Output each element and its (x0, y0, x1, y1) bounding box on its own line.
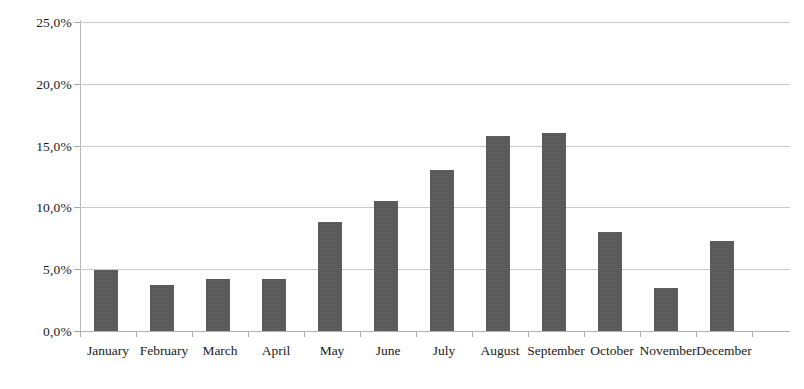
x-axis-tick (472, 332, 473, 337)
bar-october (598, 232, 622, 331)
x-axis-tick (136, 332, 137, 337)
y-axis-tick-label: 15,0% (4, 140, 72, 154)
y-axis-tick-label: 25,0% (4, 16, 72, 30)
bar-february (150, 285, 174, 331)
x-axis-tick (416, 332, 417, 337)
bar-june (374, 201, 398, 331)
y-axis-tick-label: 20,0% (4, 78, 72, 92)
bar-september (542, 133, 566, 331)
y-axis-tick-label: 10,0% (4, 201, 72, 215)
bar-december (710, 241, 734, 331)
bar-may (318, 222, 342, 331)
gridline-20 (80, 84, 790, 85)
x-axis-tick (248, 332, 249, 337)
y-axis-tick-label: 0,0% (4, 325, 72, 339)
x-axis-tick (696, 332, 697, 337)
bar-april (262, 279, 286, 331)
bar-march (206, 279, 230, 331)
gridline-15 (80, 146, 790, 147)
bar-chart: 25,0% 20,0% 15,0% 10,0% 5,0% 0,0% (0, 0, 804, 389)
bar-november (654, 288, 678, 331)
x-axis-tick (528, 332, 529, 337)
x-axis-tick (304, 332, 305, 337)
x-axis-tick (360, 332, 361, 337)
x-axis-tick (192, 332, 193, 337)
x-axis-tick (80, 332, 81, 337)
gridline-25 (80, 22, 790, 23)
x-axis-tick (640, 332, 641, 337)
y-axis-tick-label: 5,0% (4, 263, 72, 277)
plot-area (80, 22, 790, 331)
bar-july (430, 170, 454, 331)
x-axis-tick (752, 332, 753, 337)
bar-january (94, 270, 118, 331)
x-axis-label-december: December (682, 344, 766, 358)
bar-august (486, 136, 510, 331)
y-axis-labels: 25,0% 20,0% 15,0% 10,0% 5,0% 0,0% (0, 0, 72, 389)
x-axis-tick (584, 332, 585, 337)
